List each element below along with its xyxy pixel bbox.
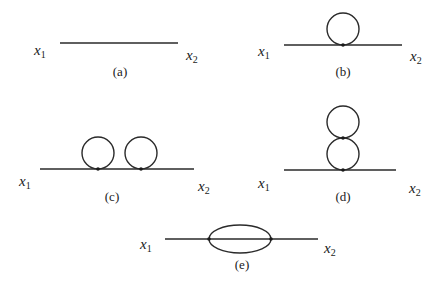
panel-c: x1 x2 (c) xyxy=(18,137,210,204)
panel-a: x1 x2 (a) xyxy=(33,42,198,79)
label-x2: x2 xyxy=(409,48,422,66)
vertex-dot xyxy=(341,136,345,140)
vertex-dot xyxy=(207,237,211,241)
tadpole-loop xyxy=(327,13,359,45)
panel-d: x1 x2 (d) xyxy=(257,106,421,204)
label-x1: x1 xyxy=(257,43,270,61)
caption-e: (e) xyxy=(235,257,249,272)
label-x2: x2 xyxy=(185,47,198,65)
label-x2: x2 xyxy=(408,180,421,198)
label-x2: x2 xyxy=(197,178,210,196)
label-x1: x1 xyxy=(139,236,152,254)
vertex-dot xyxy=(269,237,273,241)
vertex-dot xyxy=(341,168,345,172)
panel-b: x1 x2 (b) xyxy=(257,13,422,79)
vertex-dot xyxy=(96,167,100,171)
caption-d: (d) xyxy=(335,189,350,204)
tadpole-loop-lower xyxy=(327,138,359,170)
panel-e: x1 x2 (e) xyxy=(139,225,336,272)
label-x2: x2 xyxy=(323,240,336,258)
caption-b: (b) xyxy=(335,64,350,79)
label-x1: x1 xyxy=(33,42,46,60)
label-x1: x1 xyxy=(18,173,31,191)
vertex-dot xyxy=(341,43,345,47)
feynman-diagram-figure: x1 x2 (a) x1 x2 (b) x1 x2 (c) x1 x2 (d) xyxy=(0,0,446,299)
tadpole-loop-right xyxy=(125,137,157,169)
label-x1: x1 xyxy=(257,175,270,193)
tadpole-loop-upper xyxy=(327,106,359,138)
caption-c: (c) xyxy=(105,189,119,204)
tadpole-loop-left xyxy=(82,137,114,169)
caption-a: (a) xyxy=(113,64,127,79)
vertex-dot xyxy=(139,167,143,171)
